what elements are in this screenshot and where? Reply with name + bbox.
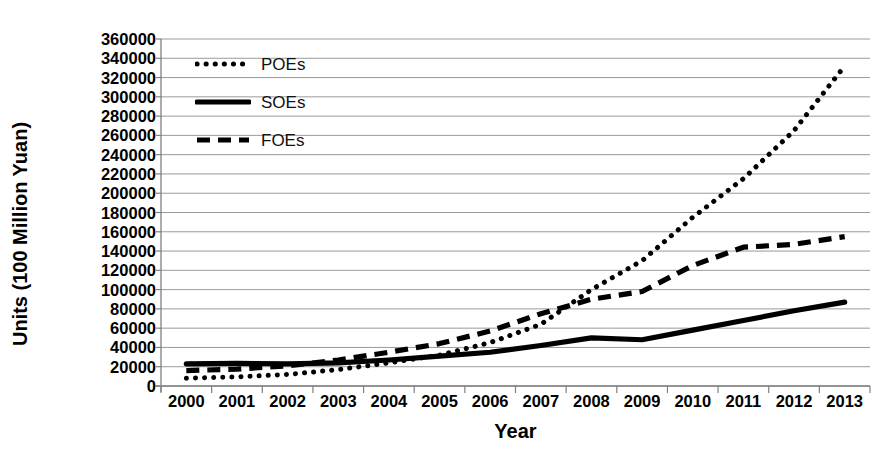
x-tick-label: 2003 xyxy=(320,392,357,412)
chart-page: Units (100 Million Yuan) 360000340000320… xyxy=(0,0,889,468)
y-tick-label: 360000 xyxy=(60,31,156,48)
x-tick-label: 2008 xyxy=(573,392,610,412)
y-tick-label: 260000 xyxy=(60,127,156,144)
y-tick-label: 40000 xyxy=(60,339,156,356)
y-tick-label: 120000 xyxy=(60,262,156,279)
y-tick-label: 140000 xyxy=(60,243,156,260)
y-tick-label: 160000 xyxy=(60,224,156,241)
y-tick-label: 0 xyxy=(60,378,156,395)
y-tick-label: 220000 xyxy=(60,166,156,183)
y-tick-label: 300000 xyxy=(60,89,156,106)
legend-entry-foes[interactable]: FOEs xyxy=(195,128,304,152)
y-tick-label: 240000 xyxy=(60,147,156,164)
legend-label: FOEs xyxy=(261,132,304,149)
y-tick-label: 100000 xyxy=(60,282,156,299)
x-tick-label: 2002 xyxy=(269,392,306,412)
y-tick-label: 180000 xyxy=(60,205,156,222)
legend-entry-poes[interactable]: POEs xyxy=(195,52,305,76)
y-tick-label: 60000 xyxy=(60,320,156,337)
x-axis-title: Year xyxy=(161,420,870,443)
x-tick-label: 2006 xyxy=(472,392,509,412)
y-tick-label: 20000 xyxy=(60,359,156,376)
y-tick-label: 320000 xyxy=(60,70,156,87)
y-tick-label: 280000 xyxy=(60,108,156,125)
legend-label: POEs xyxy=(261,56,305,73)
y-axis-title: Units (100 Million Yuan) xyxy=(0,0,40,468)
x-tick-label: 2012 xyxy=(776,392,813,412)
legend-label: SOEs xyxy=(261,94,305,111)
x-axis-tick-labels: 2000200120022003200420052006200720082009… xyxy=(161,392,870,418)
legend-swatch-solid-icon xyxy=(195,93,251,111)
x-tick-label: 2001 xyxy=(219,392,256,412)
y-tick-label: 80000 xyxy=(60,301,156,318)
legend-swatch-dashed-icon xyxy=(195,131,251,149)
chart-legend: POEsSOEsFOEs xyxy=(195,52,355,164)
x-tick-label: 2004 xyxy=(371,392,408,412)
x-tick-label: 2010 xyxy=(674,392,711,412)
x-tick-label: 2009 xyxy=(624,392,661,412)
y-tick-label: 200000 xyxy=(60,185,156,202)
x-tick-label: 2005 xyxy=(421,392,458,412)
x-tick-label: 2013 xyxy=(826,392,863,412)
legend-swatch-dotted-icon xyxy=(195,55,251,73)
x-tick-label: 2007 xyxy=(522,392,559,412)
y-tick-label: 340000 xyxy=(60,50,156,67)
x-tick-label: 2000 xyxy=(168,392,205,412)
legend-entry-soes[interactable]: SOEs xyxy=(195,90,305,114)
y-axis-tick-labels: 3600003400003200003000002800002600002400… xyxy=(60,0,156,468)
series-line-soes xyxy=(186,302,844,364)
x-tick-label: 2011 xyxy=(725,392,761,412)
